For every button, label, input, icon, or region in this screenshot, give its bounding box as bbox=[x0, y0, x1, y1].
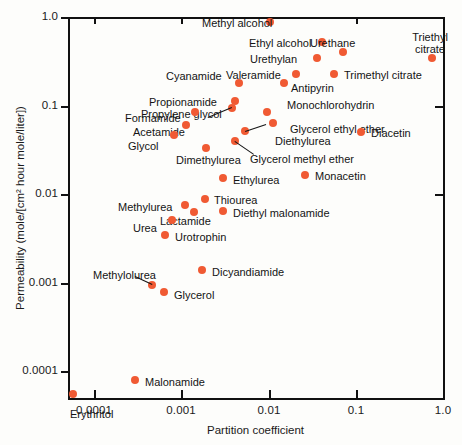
y-tick-label: 0.01 bbox=[35, 187, 58, 199]
y-tick-right bbox=[435, 106, 444, 108]
y-tick-label: 0.1 bbox=[42, 99, 58, 111]
point-label: Monacetin bbox=[315, 170, 366, 182]
data-point[interactable] bbox=[160, 288, 168, 296]
y-tick bbox=[61, 17, 70, 19]
point-label: Diethylurea bbox=[275, 135, 331, 147]
point-label: Dimethylurea bbox=[176, 154, 241, 166]
x-axis-title: Partition coefficient bbox=[207, 424, 304, 436]
data-point[interactable] bbox=[219, 174, 227, 182]
y-tick bbox=[61, 371, 70, 373]
x-tick bbox=[269, 390, 271, 399]
y-tick bbox=[61, 106, 70, 108]
data-point[interactable] bbox=[170, 131, 178, 139]
x-tick bbox=[94, 390, 96, 399]
data-point[interactable] bbox=[198, 266, 206, 274]
point-label: Urethane bbox=[310, 37, 355, 49]
point-label: Antipyrin bbox=[291, 82, 334, 94]
data-point[interactable] bbox=[161, 231, 169, 239]
point-label: Glycerol methyl ether bbox=[250, 153, 354, 165]
data-point[interactable] bbox=[339, 48, 347, 56]
point-label: Monochlorohydrin bbox=[287, 99, 374, 111]
point-label: Ethylurea bbox=[233, 174, 279, 186]
point-label: Cyanamide bbox=[166, 70, 222, 82]
data-point[interactable] bbox=[313, 54, 321, 62]
point-label: Valeramide bbox=[226, 69, 281, 81]
point-label: Urea bbox=[133, 222, 157, 234]
scatter-plot-figure: 0.00010.0010.010.11.00.00010.0010.010.11… bbox=[0, 0, 462, 445]
point-label: Glycerol bbox=[174, 289, 214, 301]
data-point[interactable] bbox=[280, 79, 288, 87]
point-label: Urotrophin bbox=[175, 231, 226, 243]
data-point[interactable] bbox=[330, 70, 338, 78]
point-label: Glycol bbox=[128, 140, 159, 152]
x-tick bbox=[356, 390, 358, 399]
y-tick-label: 0.001 bbox=[29, 276, 58, 288]
x-tick-label: 1.0 bbox=[435, 404, 451, 416]
point-label: Trimethyl citrate bbox=[344, 69, 422, 81]
x-tick-label: 0.1 bbox=[348, 404, 364, 416]
x-tick-top bbox=[181, 17, 183, 24]
point-label: Malonamide bbox=[145, 376, 205, 388]
point-label: Methyl alcohol bbox=[202, 17, 272, 29]
data-point[interactable] bbox=[357, 128, 365, 136]
point-label: Ethyl alcohol bbox=[249, 37, 311, 49]
y-tick bbox=[61, 283, 70, 285]
label-leader-line bbox=[234, 141, 254, 155]
data-point[interactable] bbox=[191, 108, 199, 116]
point-label: Diacetin bbox=[371, 127, 411, 139]
data-point[interactable] bbox=[263, 108, 271, 116]
data-point[interactable] bbox=[428, 54, 436, 62]
point-label: Thiourea bbox=[214, 194, 257, 206]
y-tick-right bbox=[435, 194, 444, 196]
data-point[interactable] bbox=[219, 207, 227, 215]
data-point[interactable] bbox=[168, 216, 176, 224]
point-label: Formamide bbox=[125, 112, 181, 124]
data-point[interactable] bbox=[69, 390, 77, 398]
point-label: Methylolurea bbox=[93, 269, 156, 281]
point-label: Diethyl malonamide bbox=[233, 207, 330, 219]
point-label: Dicyandiamide bbox=[212, 266, 284, 278]
point-label: Methylurea bbox=[118, 201, 172, 213]
x-tick-top bbox=[94, 17, 96, 24]
data-point[interactable] bbox=[235, 79, 243, 87]
y-tick bbox=[61, 194, 70, 196]
point-label: Triethyl citrate bbox=[404, 31, 456, 55]
data-point[interactable] bbox=[269, 119, 277, 127]
point-label: Propionamide bbox=[149, 96, 217, 108]
data-point[interactable] bbox=[131, 376, 139, 384]
y-tick-label: 0.0001 bbox=[22, 364, 58, 376]
data-point[interactable] bbox=[201, 195, 209, 203]
x-tick-top bbox=[356, 17, 358, 24]
x-axis-line bbox=[68, 398, 445, 400]
point-label: Urethylan bbox=[250, 53, 297, 65]
x-tick-label: 0.01 bbox=[258, 404, 281, 416]
plot-right-border bbox=[443, 17, 445, 398]
y-axis-line bbox=[68, 17, 70, 400]
y-axis-title: Permeability (mole/[cm² hour mole/liter]… bbox=[14, 106, 26, 310]
data-point[interactable] bbox=[301, 171, 309, 179]
data-point[interactable] bbox=[202, 144, 210, 152]
y-tick-label: 1.0 bbox=[42, 10, 58, 22]
x-tick-label: 0.001 bbox=[166, 404, 195, 416]
data-point[interactable] bbox=[292, 70, 300, 78]
data-point[interactable] bbox=[181, 201, 189, 209]
x-tick bbox=[443, 390, 445, 399]
x-tick bbox=[181, 390, 183, 399]
point-label: Erythritol bbox=[70, 408, 113, 420]
